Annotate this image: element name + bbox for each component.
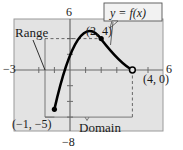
y-axis-top-tick-label: 6 bbox=[66, 5, 72, 19]
x-axis-left-tick-label: −3 bbox=[3, 62, 16, 76]
range-label: Range bbox=[15, 25, 48, 40]
right-endpoint-marker bbox=[130, 67, 136, 73]
left-endpoint-label: (−1, −5) bbox=[12, 117, 52, 131]
domain-label: Domain bbox=[79, 120, 121, 135]
vertex-point-label: (2, 4) bbox=[86, 24, 112, 38]
graph-canvas: −3 6 6 −8 Range Domain y = f(x) (2, 4) (… bbox=[0, 0, 183, 150]
function-graph-figure: −3 6 6 −8 Range Domain y = f(x) (2, 4) (… bbox=[0, 0, 183, 150]
function-callout-label: y = f(x) bbox=[109, 6, 146, 20]
left-endpoint-marker bbox=[52, 107, 57, 112]
y-axis-bottom-tick-label: −8 bbox=[62, 135, 75, 149]
right-endpoint-label: (4, 0) bbox=[143, 72, 169, 86]
